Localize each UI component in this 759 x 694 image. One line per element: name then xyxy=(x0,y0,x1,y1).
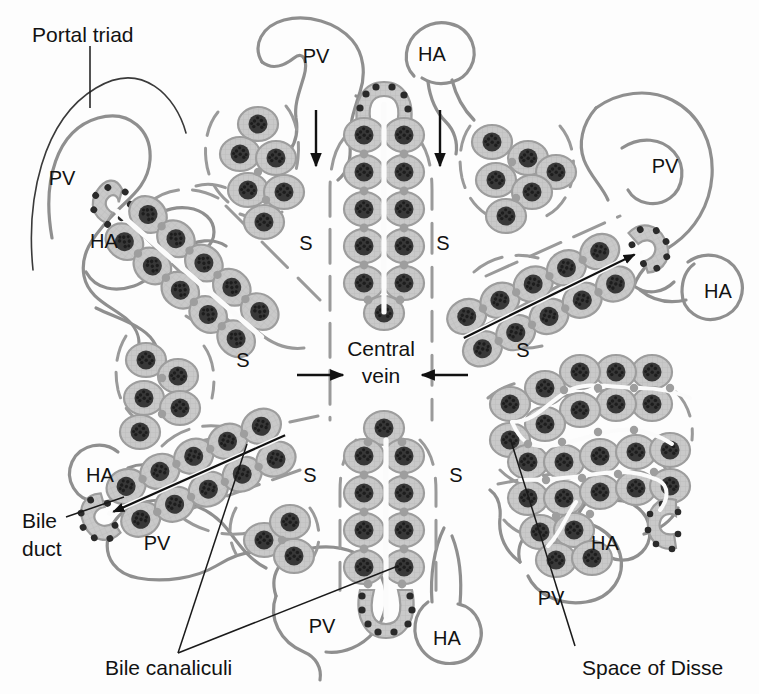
pv-label-top-center: PV xyxy=(303,45,330,67)
s-label-top-right: S xyxy=(436,232,449,254)
s-label-mid-left: S xyxy=(236,349,249,371)
portal-triad-label: Portal triad xyxy=(32,23,134,46)
ha-label-right: HA xyxy=(704,280,732,302)
hepatocyte-cluster-top-left xyxy=(220,107,304,239)
central-vein-label-line1: Central xyxy=(347,337,415,360)
pv-label-bottom-right: PV xyxy=(538,587,565,609)
ha-label-bottom-center: HA xyxy=(433,627,461,649)
s-label-top-left: S xyxy=(299,232,312,254)
bile-canaliculi-label: Bile canaliculi xyxy=(105,656,232,679)
pv-label-bottom-center: PV xyxy=(309,615,336,637)
hepatic-plate-top-center xyxy=(344,82,424,330)
bile-duct-label-line2: duct xyxy=(22,537,62,560)
hepatocyte-cluster-mid-left xyxy=(120,343,200,449)
figure-canvas: Portal triad Central vein Bile duct Bile… xyxy=(0,0,759,694)
pv-label-top-right: PV xyxy=(652,155,679,177)
ha-label-bottom-right: HA xyxy=(591,532,619,554)
bile-duct-label-line1: Bile xyxy=(22,509,57,532)
hepatocyte-cluster-bottom-mid xyxy=(244,505,314,573)
s-label-mid-right: S xyxy=(516,339,529,361)
hepatic-plate-bottom-center xyxy=(344,411,424,638)
hepatocyte-cluster-top-right xyxy=(472,125,576,233)
ha-label-left: HA xyxy=(90,230,118,252)
hepatic-plate-upper-right xyxy=(441,207,683,373)
pv-label-top-left: PV xyxy=(49,167,76,189)
s-label-bottom-left: S xyxy=(303,464,316,486)
ha-label-bottom-left: HA xyxy=(86,464,114,486)
liver-lobule-diagram: Portal triad Central vein Bile duct Bile… xyxy=(0,0,759,694)
pv-label-bottom-left: PV xyxy=(144,532,171,554)
ha-label-top-center: HA xyxy=(418,43,446,65)
central-vein-label-line2: vein xyxy=(362,364,401,387)
space-of-disse-label: Space of Disse xyxy=(582,656,723,679)
s-label-bottom-right: S xyxy=(449,464,462,486)
